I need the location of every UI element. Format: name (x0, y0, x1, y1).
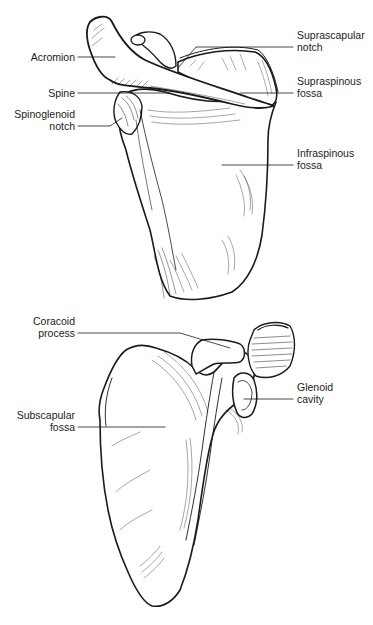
label-coracoid-line2: process (33, 327, 75, 339)
label-acromion-text: Acromion (31, 51, 75, 63)
label-supraspinous-line2: fossa (297, 87, 361, 99)
label-spine-text: Spine (48, 87, 75, 99)
label-supraspinous-line1: Supraspinous (297, 75, 361, 87)
label-spinoglenoid-line1: Spinoglenoid (14, 108, 75, 120)
label-subscapular-fossa: Subscapular fossa (17, 409, 75, 433)
label-suprascapular-line2: notch (297, 41, 365, 53)
label-infraspinous-line1: Infraspinous (297, 147, 354, 159)
label-spinoglenoid-notch: Spinoglenoid notch (14, 108, 75, 132)
label-infraspinous-line2: fossa (297, 159, 354, 171)
label-glenoid-line1: Glenoid (297, 381, 333, 393)
anterior-scapula-drawing (99, 323, 294, 607)
label-glenoid-line2: cavity (297, 393, 333, 405)
scapula-illustration: Acromion Spine Spinoglenoid notch Supras… (0, 0, 373, 625)
label-supraspinous-fossa: Supraspinous fossa (297, 75, 361, 99)
label-coracoid-line1: Coracoid (33, 315, 75, 327)
label-spine: Spine (48, 87, 75, 99)
label-suprascapular-notch: Suprascapular notch (297, 29, 365, 53)
label-subscapular-line1: Subscapular (17, 409, 75, 421)
label-infraspinous-fossa: Infraspinous fossa (297, 147, 354, 171)
label-suprascapular-line1: Suprascapular (297, 29, 365, 41)
label-coracoid-process: Coracoid process (33, 315, 75, 339)
label-spinoglenoid-line2: notch (14, 120, 75, 132)
label-acromion: Acromion (31, 51, 75, 63)
label-glenoid-cavity: Glenoid cavity (297, 381, 333, 405)
posterior-scapula-drawing (87, 17, 278, 300)
label-subscapular-line2: fossa (17, 421, 75, 433)
